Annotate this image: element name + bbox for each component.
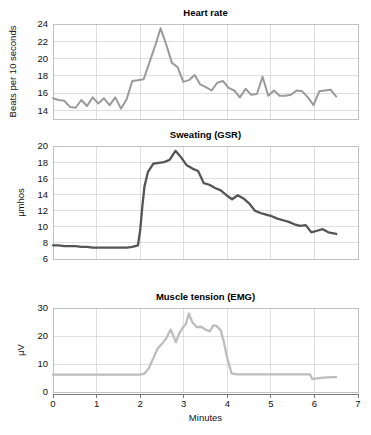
chart-panel-1: Heart rate141618202224Beats per 10 secon… — [7, 7, 358, 119]
panel-title-3: Muscle tension (EMG) — [156, 291, 255, 302]
ytick-label-2: 12 — [37, 205, 48, 216]
panel-title-1: Heart rate — [183, 7, 227, 18]
xtick-label: 7 — [355, 398, 360, 409]
chart-panel-2: Sweating (GSR)68101214161820μmhos — [15, 129, 358, 264]
ytick-label-2: 6 — [43, 253, 48, 264]
ytick-label-1: 16 — [37, 87, 48, 98]
chart-panel-3: Muscle tension (EMG)0102030μV — [15, 291, 358, 397]
ytick-label-1: 18 — [37, 70, 48, 81]
ytick-label-2: 14 — [37, 189, 48, 200]
ytick-label-1: 24 — [37, 18, 48, 29]
ytick-label-2: 10 — [37, 221, 48, 232]
data-series-line-3 — [53, 314, 336, 380]
ytick-label-3: 20 — [37, 330, 48, 341]
xtick-label: 5 — [268, 398, 273, 409]
y-axis-title-1: Beats per 10 seconds — [7, 25, 18, 117]
data-series-line-1 — [53, 28, 336, 108]
biofeedback-figure: Heart rate141618202224Beats per 10 secon… — [0, 0, 371, 435]
chart-svg: Heart rate141618202224Beats per 10 secon… — [0, 0, 371, 435]
ytick-label-1: 22 — [37, 36, 48, 47]
ytick-label-2: 8 — [43, 237, 48, 248]
y-axis-title-2: μmhos — [15, 188, 26, 217]
xtick-label: 2 — [137, 398, 142, 409]
x-axis-title: Minutes — [189, 412, 223, 423]
ytick-label-3: 0 — [43, 386, 48, 397]
x-axis: 01234567Minutes — [50, 394, 360, 423]
ytick-label-1: 14 — [37, 105, 48, 116]
xtick-label: 0 — [50, 398, 55, 409]
plot-frame-2 — [53, 146, 358, 259]
ytick-label-3: 10 — [37, 358, 48, 369]
data-series-line-2 — [53, 151, 336, 248]
xtick-label: 3 — [181, 398, 186, 409]
xtick-label: 4 — [225, 398, 230, 409]
xtick-label: 1 — [94, 398, 99, 409]
panel-title-2: Sweating (GSR) — [170, 129, 241, 140]
ytick-label-1: 20 — [37, 53, 48, 64]
xtick-label: 6 — [312, 398, 317, 409]
y-axis-title-3: μV — [15, 343, 26, 355]
ytick-label-2: 18 — [37, 157, 48, 168]
ytick-label-3: 30 — [37, 302, 48, 313]
ytick-label-2: 20 — [37, 140, 48, 151]
ytick-label-2: 16 — [37, 173, 48, 184]
